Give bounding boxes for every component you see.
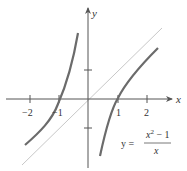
equation-lhs: y =: [121, 138, 135, 149]
equation-label: y = x2 − 1 x: [121, 128, 171, 156]
asymptote-line: [22, 28, 162, 165]
equation-numerator: x2 − 1: [145, 128, 170, 140]
equation-denominator: x: [153, 145, 159, 156]
x-tick-label-neg1: −1: [52, 107, 63, 118]
x-tick-label-neg2: −2: [22, 107, 33, 118]
x-tick-label-1: 1: [116, 107, 121, 118]
x-tick-label-2: 2: [144, 107, 149, 118]
y-axis-label: y: [91, 7, 97, 19]
curve-left-branch: [25, 33, 78, 145]
graph: x y −2 −1 1 2 y = x2 − 1 x: [0, 0, 187, 171]
x-axis-label: x: [175, 93, 181, 105]
